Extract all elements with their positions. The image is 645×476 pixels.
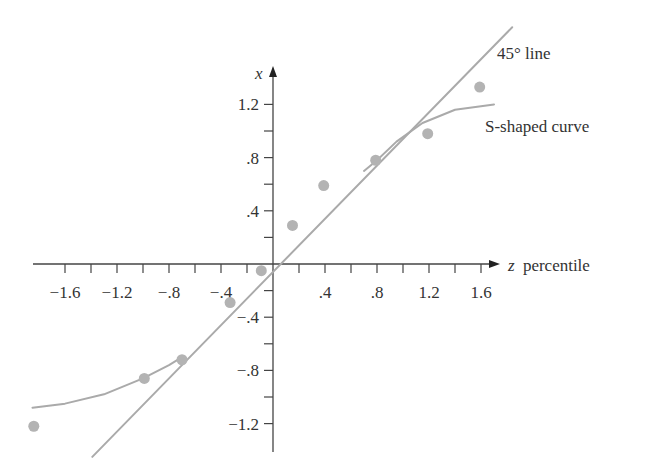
x-tick-label: 1.2 xyxy=(418,283,439,302)
x-axis-title-variable: z xyxy=(507,256,515,275)
y-axis-title: x xyxy=(254,64,263,83)
y-tick-label: 1.2 xyxy=(238,95,259,114)
annotation-45-line: 45° line xyxy=(497,44,551,63)
data-point xyxy=(287,220,298,231)
x-axis-arrow-icon xyxy=(489,260,500,268)
x-tick-label: .4 xyxy=(319,283,332,302)
y-tick-label: .8 xyxy=(246,149,259,168)
data-point xyxy=(28,421,39,432)
data-point xyxy=(225,297,236,308)
data-point xyxy=(256,265,267,276)
data-point xyxy=(474,82,485,93)
y-axis-arrow-icon xyxy=(269,66,277,77)
x-tick-label: −1.6 xyxy=(50,283,81,302)
annotation-s-curve: S-shaped curve xyxy=(485,117,589,136)
data-point xyxy=(370,155,381,166)
x-axis-title: z percentile xyxy=(507,256,590,275)
qq-plot: −1.6−1.2−.8−.4.4.81.21.61.2.8.4−.4−.8−1.… xyxy=(0,0,645,476)
data-point xyxy=(318,180,329,191)
s-shaped-curve xyxy=(33,104,495,407)
x-tick-label: .8 xyxy=(371,283,384,302)
y-tick-label: −.4 xyxy=(237,308,260,327)
x-axis-title-text: percentile xyxy=(523,256,590,275)
data-point xyxy=(422,128,433,139)
x-tick-label: −.8 xyxy=(158,283,180,302)
forty-five-degree-line xyxy=(92,27,512,457)
x-tick-label: −1.2 xyxy=(102,283,133,302)
y-tick-label: −1.2 xyxy=(228,415,259,434)
data-point xyxy=(139,373,150,384)
data-point xyxy=(177,354,188,365)
y-tick-label: .4 xyxy=(246,202,259,221)
x-tick-label: 1.6 xyxy=(470,283,491,302)
y-tick-label: −.8 xyxy=(237,361,259,380)
